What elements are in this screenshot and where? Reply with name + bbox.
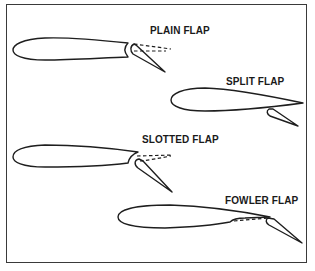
- plain-flap-drawing: [13, 38, 171, 72]
- plain-main-airfoil: [13, 38, 128, 60]
- plain-flap-deflected: [131, 44, 165, 72]
- slotted-flap-drawing: [13, 145, 173, 192]
- fowler-flap-extended: [266, 218, 302, 243]
- fowler-main-airfoil: [118, 205, 270, 228]
- split-flap-label: SPLIT FLAP: [226, 76, 284, 87]
- slotted-flap-deflected: [135, 159, 172, 192]
- fowler-flap-drawing: [118, 205, 302, 243]
- slotted-main-airfoil: [13, 145, 138, 167]
- split-main-airfoil: [171, 88, 303, 111]
- fowler-flap-label: FOWLER FLAP: [225, 195, 298, 206]
- split-flap-deflected: [267, 109, 298, 126]
- flap-types-diagram: PLAIN FLAP SPLIT FLAP SLOTTED FLAP FOWLE…: [0, 0, 315, 271]
- plain-flap-label: PLAIN FLAP: [150, 25, 210, 36]
- split-flap-drawing: [171, 88, 303, 126]
- slotted-flap-label: SLOTTED FLAP: [142, 134, 219, 145]
